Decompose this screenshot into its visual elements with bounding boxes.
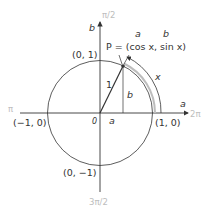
label-origin: 0 [92,117,97,126]
label-point-right: (1, 0) [155,117,181,128]
label-left-angle: π [8,104,13,114]
label-point-P: P = (cos x, sin x) [106,41,186,52]
label-top-angle: π/2 [102,10,115,20]
label-horizontal-axis: a [180,98,186,109]
label-point-top: (0, 1) [72,49,98,60]
label-annot-b: b [163,28,169,39]
label-annot-a: a [135,28,141,39]
pointer-a [119,55,122,64]
label-right-angle: 2π [190,109,201,119]
label-segment-a: a [109,115,115,126]
label-vertical-axis: b [89,22,95,33]
unit-circle-diagram: π/2 3π/2 π 2π b a (0, 1) (0, −1) (−1, 0)… [0,0,208,210]
label-segment-b: b [127,89,133,100]
label-radius: 1 [106,79,112,90]
label-point-left: (−1, 0) [13,117,47,128]
point-P [121,64,125,68]
label-bottom-angle: 3π/2 [89,197,108,207]
label-arc-length: x [154,71,161,82]
pointer-b [124,55,129,64]
label-point-bottom: (0, −1) [63,167,97,178]
